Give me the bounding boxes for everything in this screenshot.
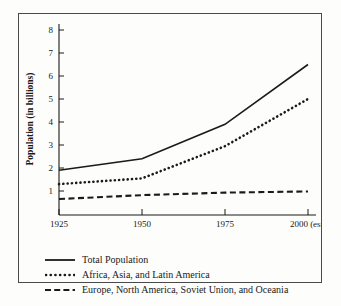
dotted-line-marker [45, 270, 75, 280]
y-axis-title: Population (in billions) [25, 73, 36, 166]
y-tick-labels: 12345678 [49, 25, 54, 196]
y-tick-label-8: 8 [49, 25, 54, 35]
x-axis: 1925195019752000 (est) [50, 209, 321, 229]
data-series-group [59, 65, 308, 200]
y-axis: 12345678 Population (in billions) [25, 24, 64, 215]
legend-item-developed-regions: Europe, North America, Soviet Union, and… [45, 282, 331, 297]
legend-label-total-population: Total Population [82, 255, 148, 265]
x-tick-label-2000: 2000 (est) [290, 219, 321, 229]
legend-label-developing-regions: Africa, Asia, and Latin America [82, 270, 210, 280]
x-tick-label-1950: 1950 [133, 219, 152, 229]
x-tick-label-1925: 1925 [50, 219, 69, 229]
solid-line-marker [45, 255, 75, 265]
series-line-0 [59, 65, 308, 171]
y-tick-label-2: 2 [49, 163, 54, 173]
y-tick-label-3: 3 [49, 140, 54, 150]
chart-legend: Total Population Africa, Asia, and Latin… [45, 252, 331, 297]
y-tick-label-5: 5 [49, 94, 54, 104]
y-tick-label-1: 1 [49, 186, 54, 196]
series-line-2 [59, 191, 308, 199]
y-tick-label-6: 6 [49, 71, 54, 81]
population-line-chart: 12345678 Population (in billions) 192519… [19, 14, 321, 282]
x-tick-marks [59, 209, 308, 215]
y-tick-label-4: 4 [49, 117, 54, 127]
y-tick-label-7: 7 [49, 48, 54, 58]
legend-item-total-population: Total Population [45, 252, 331, 267]
figure-frame: 12345678 Population (in billions) 192519… [18, 13, 322, 283]
x-tick-label-1975: 1975 [216, 219, 235, 229]
dashed-line-marker [45, 285, 75, 295]
legend-item-developing-regions: Africa, Asia, and Latin America [45, 267, 331, 282]
legend-label-developed-regions: Europe, North America, Soviet Union, and… [82, 285, 288, 295]
y-tick-marks [59, 30, 64, 191]
x-tick-labels: 1925195019752000 (est) [50, 219, 321, 229]
